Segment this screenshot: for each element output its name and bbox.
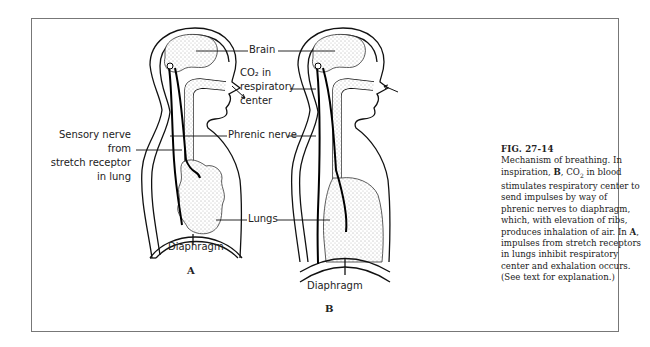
label-brain: Brain (249, 44, 275, 56)
label-co2-line3: center (240, 95, 272, 107)
panel-label-b: B (325, 303, 333, 314)
panel-label-a: A (187, 265, 195, 276)
lungs-a (178, 160, 225, 234)
label-co2-line1: CO₂ in (240, 67, 271, 79)
label-phrenic-nerve: Phrenic nerve (228, 129, 297, 141)
label-sensory-line2: from (108, 143, 131, 155)
figure-number: FIG. 27-14 (501, 144, 641, 155)
label-diaphragm-b: Diaphragm (307, 280, 363, 292)
label-lungs: Lungs (248, 213, 278, 225)
label-sensory-line4: in lung (97, 171, 131, 183)
label-sensory-line1: Sensory nerve (59, 129, 131, 141)
label-co2-line2: respiratory (240, 81, 295, 93)
label-sensory-line3: stretch receptor (51, 157, 131, 169)
lungs-b (323, 178, 383, 262)
caption-text: Mechanism of breathing. In inspiration, … (501, 155, 641, 283)
figure-caption: FIG. 27-14 Mechanism of breathing. In in… (501, 144, 641, 284)
label-diaphragm-a: Diaphragm (168, 241, 224, 253)
